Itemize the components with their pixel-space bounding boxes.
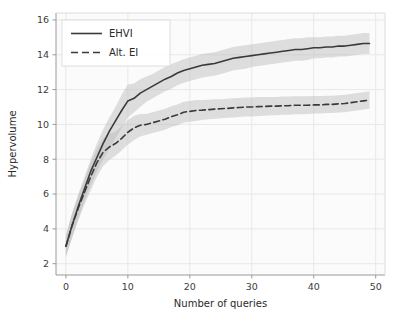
- x-axis-tick-label: 40: [308, 281, 320, 292]
- y-axis-tick-label: 2: [43, 258, 49, 269]
- y-axis-tick-label: 16: [37, 14, 49, 25]
- x-axis-tick-label: 20: [184, 281, 196, 292]
- y-axis-title: Hypervolume: [7, 110, 18, 177]
- legend-label-alt-ei: Alt. EI: [109, 47, 138, 58]
- y-axis-tick-label: 6: [43, 188, 49, 199]
- y-axis-tick-label: 4: [43, 223, 49, 234]
- chart-figure: 24681012141601020304050Number of queries…: [0, 0, 404, 313]
- legend-label-ehvi: EHVI: [109, 28, 133, 39]
- y-axis-tick-label: 10: [37, 119, 49, 130]
- x-axis-tick-label: 0: [63, 281, 69, 292]
- x-axis-tick-label: 10: [122, 281, 134, 292]
- y-axis-tick-label: 12: [37, 84, 49, 95]
- x-axis-tick-label: 50: [370, 281, 382, 292]
- x-axis-tick-label: 30: [246, 281, 258, 292]
- chart-canvas: 24681012141601020304050Number of queries…: [0, 0, 404, 313]
- x-axis-title: Number of queries: [174, 298, 267, 309]
- legend-box: [62, 20, 170, 66]
- y-axis-tick-label: 14: [37, 49, 49, 60]
- y-axis-tick-label: 8: [43, 154, 49, 165]
